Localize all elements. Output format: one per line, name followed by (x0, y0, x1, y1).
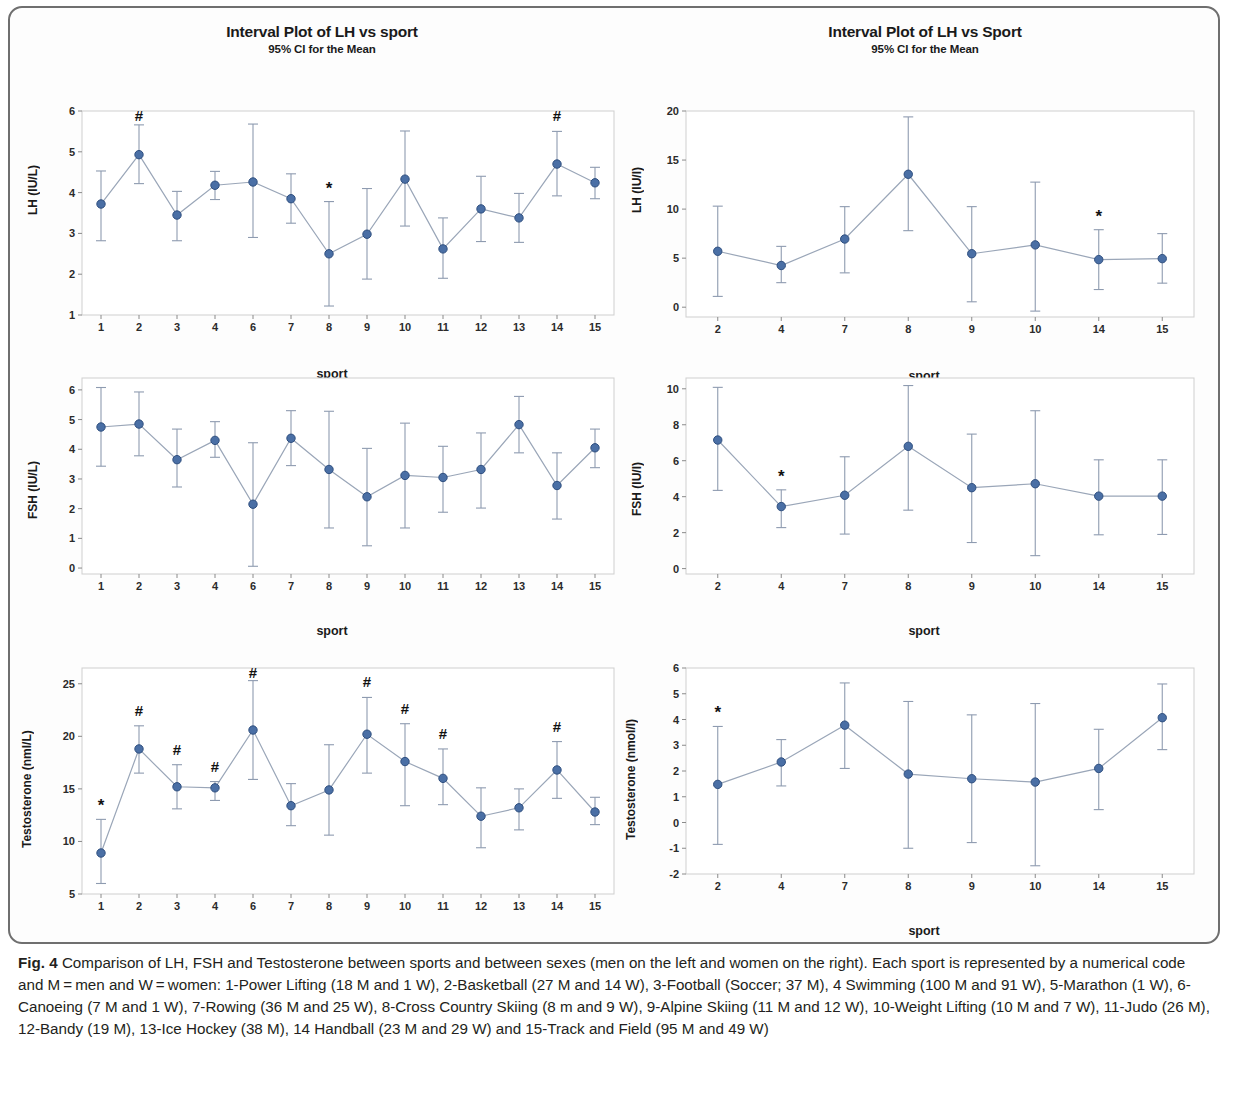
svg-text:14: 14 (551, 580, 564, 592)
svg-text:7: 7 (842, 323, 848, 335)
svg-text:10: 10 (399, 321, 411, 333)
chart-cell-testosterone-women: Testosterone (nmol/l) -2-101234562478910… (632, 652, 1218, 942)
svg-text:3: 3 (174, 580, 180, 592)
svg-text:10: 10 (667, 383, 679, 395)
svg-text:*: * (778, 467, 785, 486)
svg-text:10: 10 (399, 900, 411, 912)
svg-text:#: # (211, 758, 220, 775)
svg-text:2: 2 (69, 503, 75, 515)
y-axis-label-testosterone-men: Testosterone (nml/L) (20, 694, 34, 884)
svg-text:#: # (249, 664, 258, 681)
svg-text:#: # (553, 108, 562, 125)
svg-text:10: 10 (63, 835, 75, 847)
svg-text:9: 9 (969, 880, 975, 892)
plot-testosterone-men: Testosterone (nml/L) 5101520251234678910… (12, 652, 632, 942)
svg-text:4: 4 (778, 580, 785, 592)
svg-text:11: 11 (437, 580, 449, 592)
chart-cell-testosterone-men: Testosterone (nml/L) 5101520251234678910… (12, 652, 632, 942)
svg-text:6: 6 (250, 900, 256, 912)
svg-text:10: 10 (1029, 880, 1041, 892)
chart-title-lh-women: Interval Plot of LH vs Sport (632, 10, 1218, 40)
svg-text:15: 15 (667, 154, 679, 166)
svg-text:*: * (1095, 207, 1102, 226)
svg-text:1: 1 (673, 791, 679, 803)
svg-text:#: # (135, 702, 144, 719)
svg-text:6: 6 (69, 384, 75, 396)
plot-canvas-fsh-men: 012345612346789101112131415 (42, 368, 622, 600)
svg-text:*: * (326, 179, 333, 198)
svg-text:14: 14 (551, 900, 564, 912)
charts-grid: Interval Plot of LH vs sport 95% CI for … (12, 10, 1218, 940)
svg-text:25: 25 (63, 678, 75, 690)
svg-text:6: 6 (673, 455, 679, 467)
svg-text:6: 6 (673, 662, 679, 674)
plot-canvas-testosterone-men: 51015202512346789101112131415*######## (42, 658, 622, 920)
svg-text:8: 8 (326, 321, 332, 333)
svg-text:3: 3 (69, 228, 75, 240)
svg-text:7: 7 (288, 900, 294, 912)
chart-cell-lh-men: Interval Plot of LH vs sport 95% CI for … (12, 10, 632, 362)
svg-text:1: 1 (98, 580, 104, 592)
chart-subtitle-lh-women: 95% CI for the Mean (632, 40, 1218, 55)
svg-text:*: * (714, 703, 721, 722)
svg-text:#: # (439, 725, 448, 742)
svg-text:2: 2 (673, 527, 679, 539)
svg-text:2: 2 (69, 268, 75, 280)
svg-text:5: 5 (69, 414, 75, 426)
svg-text:9: 9 (364, 900, 370, 912)
svg-text:7: 7 (288, 580, 294, 592)
svg-text:9: 9 (364, 580, 370, 592)
svg-text:10: 10 (1029, 580, 1041, 592)
svg-text:7: 7 (842, 880, 848, 892)
y-axis-label-lh-men: LH (IU/L) (26, 115, 40, 265)
x-axis-label-fsh-women: sport (646, 624, 1202, 638)
chart-subtitle-lh-men: 95% CI for the Mean (12, 40, 632, 55)
svg-text:8: 8 (905, 323, 911, 335)
svg-text:4: 4 (673, 491, 680, 503)
svg-text:13: 13 (513, 321, 525, 333)
x-axis-label-testosterone-women: sport (646, 924, 1202, 938)
svg-text:9: 9 (969, 323, 975, 335)
y-axis-label-lh-women: LH (IU/l) (630, 125, 644, 255)
chart-cell-fsh-women: FSH (IU/l) 024681024789101415* sport (632, 362, 1218, 652)
svg-text:1: 1 (98, 900, 104, 912)
svg-text:2: 2 (715, 580, 721, 592)
svg-text:-1: -1 (669, 842, 679, 854)
svg-text:2: 2 (136, 321, 142, 333)
svg-text:5: 5 (69, 888, 75, 900)
svg-text:15: 15 (1156, 880, 1168, 892)
svg-text:4: 4 (69, 443, 76, 455)
svg-text:4: 4 (673, 714, 680, 726)
plot-canvas-lh-women: 0510152024789101415* (646, 101, 1202, 343)
svg-text:15: 15 (589, 580, 601, 592)
y-axis-label-fsh-men: FSH (IU/L) (26, 420, 40, 560)
svg-text:10: 10 (1029, 323, 1041, 335)
x-axis-label-fsh-men: sport (42, 624, 622, 638)
svg-text:4: 4 (212, 321, 219, 333)
svg-text:2: 2 (715, 323, 721, 335)
svg-text:#: # (173, 741, 182, 758)
svg-text:9: 9 (969, 580, 975, 592)
svg-text:14: 14 (1093, 323, 1106, 335)
svg-text:0: 0 (673, 301, 679, 313)
svg-text:#: # (363, 673, 372, 690)
svg-text:6: 6 (69, 105, 75, 117)
svg-text:20: 20 (63, 730, 75, 742)
svg-text:5: 5 (673, 252, 679, 264)
svg-text:5: 5 (69, 146, 75, 158)
svg-text:4: 4 (69, 187, 76, 199)
svg-text:10: 10 (667, 203, 679, 215)
svg-text:13: 13 (513, 900, 525, 912)
plot-canvas-fsh-women: 024681024789101415* (646, 368, 1202, 600)
svg-text:-2: -2 (669, 868, 679, 880)
svg-text:12: 12 (475, 900, 487, 912)
svg-text:0: 0 (69, 562, 75, 574)
svg-text:11: 11 (437, 321, 449, 333)
svg-text:6: 6 (250, 321, 256, 333)
svg-text:3: 3 (174, 321, 180, 333)
svg-text:3: 3 (69, 473, 75, 485)
svg-text:6: 6 (250, 580, 256, 592)
svg-text:1: 1 (69, 309, 75, 321)
svg-text:2: 2 (136, 580, 142, 592)
svg-text:15: 15 (1156, 323, 1168, 335)
